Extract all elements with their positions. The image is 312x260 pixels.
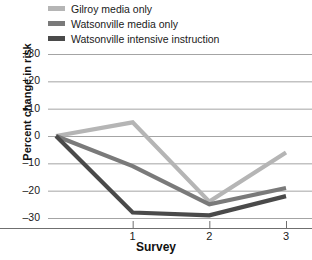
x-axis-ticks: [133, 221, 286, 228]
plot-area: +30+20+100–10–20–30 123 Percent change i…: [0, 0, 312, 260]
chart-container: Gilroy media only Watsonville media only…: [0, 0, 312, 260]
y-tick-label: –30: [6, 212, 40, 223]
plot-svg: [0, 0, 312, 260]
gridlines: [48, 55, 312, 219]
y-tick-label: –20: [6, 185, 40, 196]
x-axis-title: Survey: [0, 240, 312, 254]
y-axis-title: Percent change in risk: [21, 27, 33, 177]
series-line: [56, 122, 286, 201]
